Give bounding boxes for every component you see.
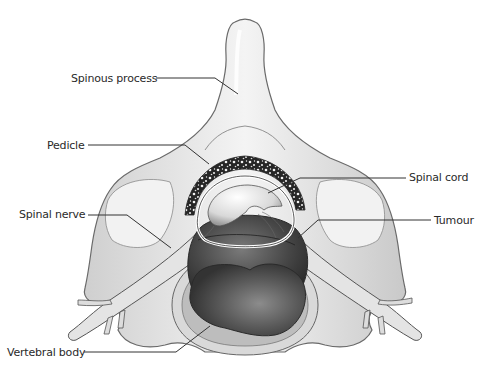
label-tumour: Tumour [434,214,474,227]
vertebra-diagram: Spinous process Pedicle Spinal cord Spin… [0,0,490,373]
label-vertebral-body: Vertebral body [7,346,85,359]
label-pedicle: Pedicle [47,139,85,152]
label-spinal-cord: Spinal cord [409,171,468,184]
label-spinous-process: Spinous process [71,72,157,85]
vertebra-illustration [0,0,490,373]
label-spinal-nerve: Spinal nerve [19,208,85,221]
